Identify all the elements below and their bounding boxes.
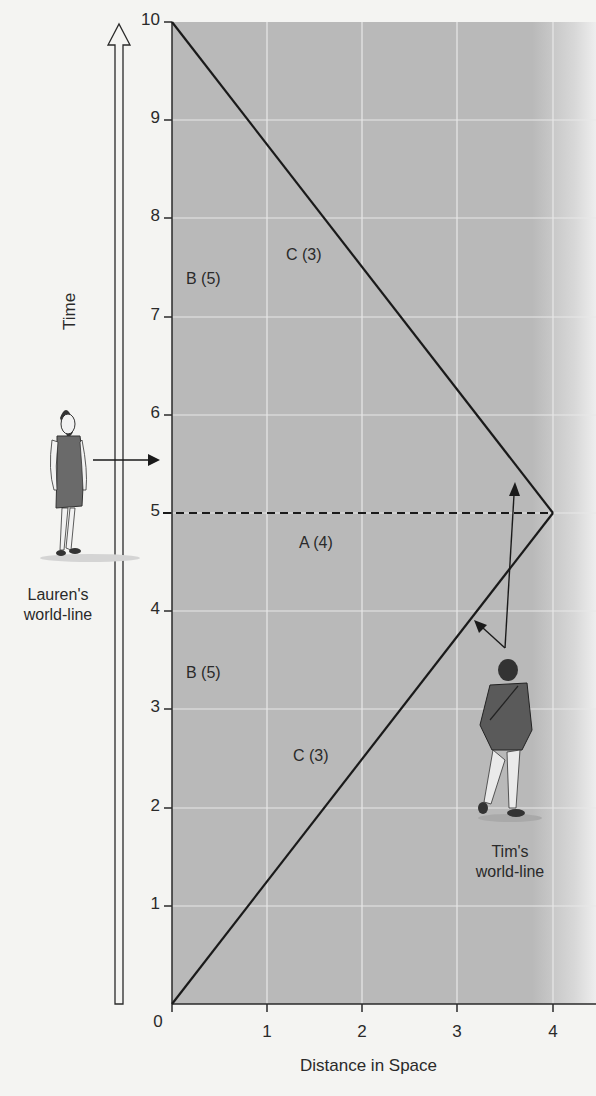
region-label-a: A (4) xyxy=(299,534,333,552)
y-tick-label: 1 xyxy=(136,894,160,914)
region-label-c-top: C (3) xyxy=(286,246,322,264)
lauren-figure-icon xyxy=(40,410,140,562)
y-tick-label: 3 xyxy=(136,697,160,717)
y-tick-label: 8 xyxy=(136,206,160,226)
lauren-caption-line2: world-line xyxy=(8,605,108,625)
y-tick-label: 10 xyxy=(136,10,160,30)
tim-caption-line1: Tim's xyxy=(460,842,560,862)
y-tick-label: 6 xyxy=(136,403,160,423)
x-axis-title: Distance in Space xyxy=(300,1056,437,1076)
region-label-c-bottom: C (3) xyxy=(293,747,329,765)
lauren-caption: Lauren's world-line xyxy=(8,585,108,625)
x-tick-label: 1 xyxy=(257,1022,277,1042)
y-tick-label: 2 xyxy=(136,796,160,816)
lauren-pointer-arrow-icon xyxy=(93,454,160,466)
x-tick-label: 0 xyxy=(148,1012,168,1032)
y-tick-label: 9 xyxy=(136,108,160,128)
y-axis-title: Time xyxy=(60,293,80,330)
lauren-caption-line1: Lauren's xyxy=(8,585,108,605)
tim-caption: Tim's world-line xyxy=(460,842,560,882)
x-tick-label: 4 xyxy=(543,1022,563,1042)
x-tick-label: 3 xyxy=(447,1022,467,1042)
tim-caption-line2: world-line xyxy=(460,862,560,882)
region-label-b-bottom: B (5) xyxy=(186,664,221,682)
region-label-b-top: B (5) xyxy=(186,270,221,288)
y-tick-label: 7 xyxy=(136,305,160,325)
x-tick-label: 2 xyxy=(352,1022,372,1042)
time-arrow-icon xyxy=(108,24,130,1004)
y-tick-label: 4 xyxy=(136,599,160,619)
tim-figure-icon xyxy=(478,659,542,822)
diagram-canvas xyxy=(0,0,596,1096)
y-tick-label: 5 xyxy=(136,501,160,521)
